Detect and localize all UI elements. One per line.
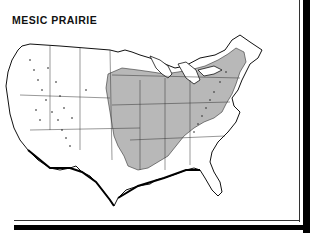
frame-border-right-thin [299,0,300,222]
us-distribution-map [0,0,300,222]
frame-border-bottom-thick [14,225,310,230]
frame-border-right-thick [303,0,310,233]
frame-border-bottom-thin [14,220,300,221]
